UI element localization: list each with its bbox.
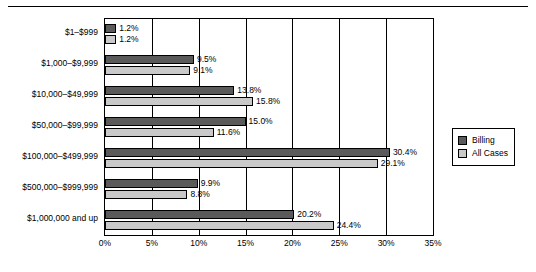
bar-value-label-all-cases: 9.1% [193, 66, 212, 75]
x-tick-label: 0% [99, 238, 111, 248]
bar-all-cases [105, 66, 190, 75]
bar-value-label-billing: 30.4% [393, 148, 417, 157]
legend-label-billing: Billing [472, 135, 495, 146]
x-tick-label: 25% [331, 238, 348, 248]
x-tick-label: 10% [190, 238, 207, 248]
bar-billing [105, 55, 194, 64]
bar-billing [105, 117, 246, 126]
bar-all-cases [105, 190, 187, 199]
category-label: $1–$999 [65, 27, 98, 37]
bar-row: 20.2%24.4% [105, 210, 433, 230]
bar-row: 15.0%11.6% [105, 117, 433, 137]
legend-swatch-billing [458, 136, 467, 145]
x-tick-label: 35% [424, 238, 441, 248]
bar-row: 9.5%9.1% [105, 55, 433, 75]
top-divider [8, 6, 528, 7]
chart-legend: Billing All Cases [452, 128, 515, 166]
x-tick-label: 20% [284, 238, 301, 248]
legend-item-all-cases: All Cases [458, 147, 508, 160]
legend-swatch-all-cases [458, 149, 467, 158]
bar-value-label-billing: 13.8% [237, 86, 261, 95]
bar-billing [105, 86, 234, 95]
category-axis-labels: $1–$999$1,000–$9,999$10,000–$49,999$50,0… [0, 18, 98, 236]
bar-row: 9.9%8.8% [105, 179, 433, 199]
bar-all-cases [105, 221, 334, 230]
bar-billing [105, 24, 116, 33]
category-label: $1,000,000 and up [27, 213, 98, 223]
bar-value-label-billing: 9.9% [201, 179, 220, 188]
bar-chart: $1–$999$1,000–$9,999$10,000–$49,999$50,0… [0, 0, 536, 272]
category-label: $50,000–$99,999 [32, 120, 98, 130]
bar-row: 1.2%1.2% [105, 24, 433, 44]
bar-rows: 1.2%1.2%9.5%9.1%13.8%15.8%15.0%11.6%30.4… [105, 19, 433, 235]
bar-row: 13.8%15.8% [105, 86, 433, 106]
bar-all-cases [105, 97, 253, 106]
plot-area: 1.2%1.2%9.5%9.1%13.8%15.8%15.0%11.6%30.4… [104, 18, 434, 236]
bar-value-label-all-cases: 15.8% [256, 97, 280, 106]
bar-value-label-all-cases: 11.6% [217, 128, 240, 137]
bar-all-cases [105, 128, 214, 137]
x-axis-tick-labels: 0%5%10%15%20%25%30%35% [104, 238, 436, 252]
bar-billing [105, 148, 390, 157]
bar-value-label-billing: 1.2% [119, 24, 138, 33]
x-tick-label: 30% [378, 238, 395, 248]
category-label: $500,000–$999,999 [22, 182, 98, 192]
bar-value-label-all-cases: 1.2% [119, 35, 138, 44]
bar-all-cases [105, 159, 378, 168]
bar-value-label-billing: 15.0% [249, 117, 273, 126]
bar-value-label-all-cases: 24.4% [337, 221, 361, 230]
bar-value-label-billing: 9.5% [197, 55, 216, 64]
category-label: $100,000–$499,999 [22, 151, 98, 161]
legend-label-all-cases: All Cases [472, 148, 508, 159]
bar-value-label-all-cases: 29.1% [381, 159, 405, 168]
bar-row: 30.4%29.1% [105, 148, 433, 168]
x-tick-label: 5% [146, 238, 158, 248]
bar-all-cases [105, 35, 116, 44]
bar-billing [105, 179, 198, 188]
category-label: $10,000–$49,999 [32, 89, 98, 99]
legend-item-billing: Billing [458, 134, 508, 147]
category-label: $1,000–$9,999 [41, 58, 98, 68]
bar-value-label-all-cases: 8.8% [190, 190, 209, 199]
x-tick-label: 15% [237, 238, 254, 248]
bar-billing [105, 210, 294, 219]
bar-value-label-billing: 20.2% [297, 210, 321, 219]
